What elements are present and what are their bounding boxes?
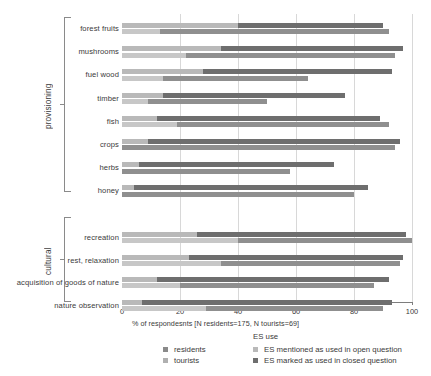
bar-segment-open-question bbox=[122, 93, 163, 98]
legend-swatch-icon bbox=[163, 358, 168, 363]
bar-tourists bbox=[122, 169, 290, 174]
bar-tourists bbox=[122, 29, 389, 34]
bar-segment-open-question bbox=[122, 46, 221, 51]
bar-segment-closed-question bbox=[148, 139, 400, 144]
category-label: forest fruits bbox=[80, 24, 119, 33]
bar-segment-open-question bbox=[122, 306, 206, 311]
bar-segment-closed-question bbox=[186, 53, 395, 58]
bar-segment-open-question bbox=[122, 76, 163, 81]
bar-segment-open-question bbox=[122, 139, 148, 144]
category-label: fish bbox=[107, 117, 119, 126]
bar-segment-open-question bbox=[122, 162, 139, 167]
bar-segment-closed-question bbox=[122, 192, 354, 197]
legend-label: ES mentioned as used in open question bbox=[264, 344, 402, 355]
bar-segment-closed-question bbox=[238, 238, 412, 243]
bar-tourists bbox=[122, 76, 308, 81]
bar-segment-closed-question bbox=[122, 145, 395, 150]
bar-residents bbox=[122, 300, 392, 305]
bar-segment-open-question bbox=[122, 53, 186, 58]
category-label: honey bbox=[98, 186, 119, 195]
bar-residents bbox=[122, 93, 345, 98]
plot-area: 020406080100 bbox=[122, 14, 412, 302]
bar-segment-open-question bbox=[122, 232, 197, 237]
bar-residents bbox=[122, 139, 400, 144]
bar-tourists bbox=[122, 306, 383, 311]
legend-swatch-icon bbox=[163, 347, 168, 352]
bar-tourists bbox=[122, 53, 395, 58]
bar-segment-closed-question bbox=[142, 300, 391, 305]
category-label: recreation bbox=[84, 233, 119, 242]
category-label: acquisition of goods of nature bbox=[17, 278, 119, 287]
bar-tourists bbox=[122, 238, 412, 243]
gridline bbox=[412, 14, 413, 302]
bar-segment-closed-question bbox=[221, 46, 404, 51]
legend-label: residents bbox=[174, 344, 206, 355]
category-label: herbs bbox=[100, 163, 120, 172]
category-label: fuel wood bbox=[86, 70, 119, 79]
legend-label: tourists bbox=[174, 355, 199, 366]
bar-residents bbox=[122, 116, 380, 121]
legend-item-es-marked-as-used-in-closed-question: ES marked as used in closed question bbox=[253, 355, 431, 366]
bar-segment-open-question bbox=[122, 99, 148, 104]
bar-segment-closed-question bbox=[221, 261, 401, 266]
category-label: timber bbox=[97, 94, 119, 103]
bar-segment-closed-question bbox=[189, 255, 404, 260]
bar-segment-closed-question bbox=[206, 306, 383, 311]
bar-segment-open-question bbox=[122, 238, 238, 243]
category-label: mushrooms bbox=[78, 47, 119, 56]
bar-segment-closed-question bbox=[238, 23, 383, 28]
bar-segment-closed-question bbox=[122, 169, 290, 174]
bar-segment-open-question bbox=[122, 261, 221, 266]
bar-segment-open-question bbox=[122, 255, 189, 260]
bar-segment-open-question bbox=[122, 23, 238, 28]
bar-segment-open-question bbox=[122, 185, 134, 190]
x-axis-tick bbox=[412, 302, 413, 305]
bar-segment-open-question bbox=[122, 300, 142, 305]
category-label: crops bbox=[100, 140, 119, 149]
bar-segment-closed-question bbox=[180, 283, 374, 288]
bar-segment-closed-question bbox=[203, 69, 392, 74]
bar-segment-closed-question bbox=[163, 76, 308, 81]
bar-segment-open-question bbox=[122, 122, 177, 127]
bar-tourists bbox=[122, 192, 354, 197]
category-label: rest, relaxation bbox=[68, 256, 119, 265]
bar-segment-open-question bbox=[122, 116, 157, 121]
legend-swatch-icon bbox=[253, 358, 258, 363]
bar-residents bbox=[122, 46, 403, 51]
legend-item-tourists: tourists bbox=[163, 355, 249, 366]
legend-label: ES marked as used in closed question bbox=[264, 355, 397, 366]
x-axis-title: % of respondesnts [N residents=175, N to… bbox=[0, 319, 431, 328]
bar-segment-closed-question bbox=[177, 122, 389, 127]
bar-tourists bbox=[122, 261, 400, 266]
legend-title: ES use bbox=[253, 332, 278, 341]
legend-item-residents: residents bbox=[163, 344, 249, 355]
bar-segment-open-question bbox=[122, 69, 203, 74]
bar-residents bbox=[122, 277, 389, 282]
legend-swatch-icon bbox=[253, 347, 258, 352]
bar-segment-open-question bbox=[122, 283, 180, 288]
bar-residents bbox=[122, 69, 392, 74]
bar-tourists bbox=[122, 122, 389, 127]
bar-segment-closed-question bbox=[197, 232, 406, 237]
legend-column-es-use: ES mentioned as used in open questionES … bbox=[253, 344, 431, 366]
bar-segment-closed-question bbox=[163, 93, 346, 98]
bar-segment-closed-question bbox=[139, 162, 333, 167]
bar-residents bbox=[122, 232, 406, 237]
legend-column-respondent-group: residentstourists bbox=[163, 344, 249, 366]
category-axis-labels: forest fruitsmushroomsfuel woodtimberfis… bbox=[0, 0, 119, 310]
category-label: nature observation bbox=[54, 301, 119, 310]
bar-tourists bbox=[122, 99, 267, 104]
bar-residents bbox=[122, 255, 403, 260]
bar-segment-closed-question bbox=[148, 99, 267, 104]
bar-residents bbox=[122, 162, 334, 167]
bar-tourists bbox=[122, 145, 395, 150]
x-axis-tick-label: 100 bbox=[406, 307, 418, 316]
bar-residents bbox=[122, 23, 383, 28]
bar-residents bbox=[122, 185, 369, 190]
legend-item-es-mentioned-as-used-in-open-question: ES mentioned as used in open question bbox=[253, 344, 431, 355]
chart-container: provisioning cultural forest fruitsmushr… bbox=[0, 0, 431, 376]
bar-segment-open-question bbox=[122, 29, 160, 34]
bar-segment-closed-question bbox=[134, 185, 369, 190]
bar-tourists bbox=[122, 283, 374, 288]
bar-segment-closed-question bbox=[157, 116, 380, 121]
